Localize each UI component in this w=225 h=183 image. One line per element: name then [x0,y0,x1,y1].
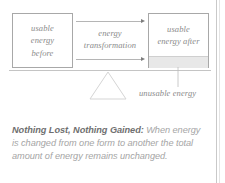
figure-page: usable energy before usable energy after… [0,0,225,183]
fulcrum-triangle-icon [89,71,127,100]
transformation-arrow-bottom-shaft [76,59,142,60]
transformation-arrow-top-arrowhead-icon [141,19,145,23]
page-edge-rule [216,0,217,183]
page-edge-rule-outer [219,0,220,183]
caption-lead: Nothing Lost, Nothing Gained: [12,125,144,135]
energy-transformation-diagram: usable energy before usable energy after… [0,0,216,112]
unusable-energy-band [149,56,208,68]
transformation-arrow-top-shaft [76,21,142,22]
usable-energy-after-label: usable energy after [157,23,199,48]
usable-energy-before-label: usable energy before [31,22,54,59]
usable-energy-before-box: usable energy before [12,13,73,68]
transformation-arrow-bottom-arrowhead-icon [141,57,145,61]
figure-caption: Nothing Lost, Nothing Gained: When energ… [12,124,208,164]
energy-transformation-label: energy transformation [78,27,142,52]
unusable-energy-label: unusable energy [139,88,196,98]
